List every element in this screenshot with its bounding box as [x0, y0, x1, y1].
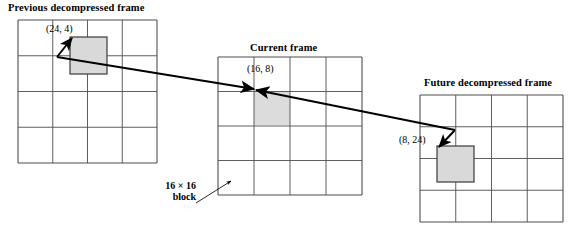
diagram-canvas [0, 0, 574, 239]
future-block-pointer [439, 130, 455, 147]
future-frame-block [437, 146, 474, 182]
coordinate-label-previous: (24, 4) [46, 23, 73, 34]
block-size-pointer [196, 181, 231, 203]
frame-title-current: Current frame [250, 42, 317, 53]
frame-title-future: Future decompressed frame [424, 77, 552, 88]
block-size-line-1: 16 × 16 [148, 180, 196, 191]
frame-title-previous: Previous decompressed frame [8, 2, 144, 13]
frame-grid-lines-current [218, 57, 362, 195]
block-size-line-2: block [148, 191, 196, 202]
coordinate-label-current: (16, 8) [247, 63, 274, 74]
coordinate-label-future: (8, 24) [399, 134, 426, 145]
previous-frame-block [70, 37, 107, 74]
block-size-annotation: 16 × 16 block [148, 180, 196, 202]
